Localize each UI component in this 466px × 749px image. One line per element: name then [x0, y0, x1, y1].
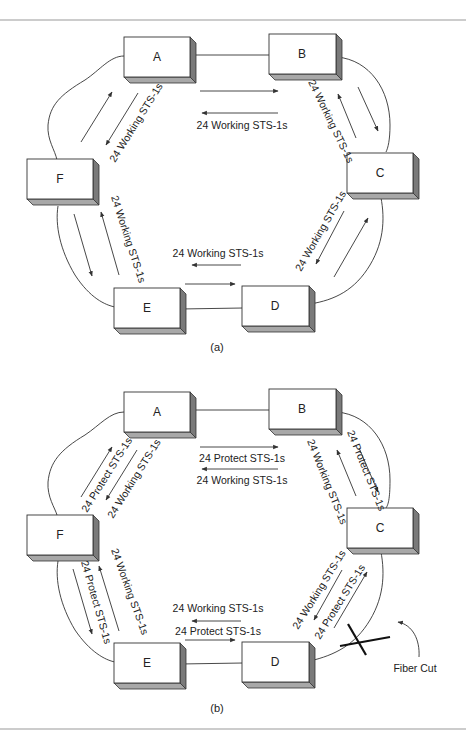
- sonet-ring-diagram: A B C D E F: [0, 0, 466, 749]
- label-ab: 24 Working STS-1s: [197, 119, 288, 131]
- node-a-label: A: [153, 50, 161, 64]
- label-de-protect: 24 Protect STS-1s: [175, 625, 261, 637]
- arrow-f-to-a: [81, 92, 112, 142]
- arrow-f-to-e: [74, 214, 92, 276]
- node-b: B: [269, 34, 342, 80]
- fiber-cut-marker: Fiber Cut: [340, 622, 437, 674]
- node-e-label: E: [143, 656, 151, 670]
- label-de-working: 24 Working STS-1s: [173, 602, 264, 614]
- caption-b: (b): [210, 702, 223, 714]
- node-f-label: F: [56, 172, 63, 186]
- node-c-label: C: [376, 166, 385, 180]
- node-a: A: [124, 37, 196, 83]
- label-cd-protect: 24 Protect STS-1s: [312, 562, 368, 641]
- node-f-label: F: [56, 528, 63, 542]
- panel-b: A B C D E F: [27, 389, 437, 714]
- arrow-c-to-b: [337, 450, 356, 496]
- node-c-label: C: [376, 521, 385, 535]
- node-a: A: [124, 392, 196, 438]
- node-d: D: [242, 642, 315, 688]
- node-c: C: [347, 508, 419, 554]
- arrow-e-to-f: [101, 212, 119, 275]
- node-f: F: [27, 515, 99, 561]
- node-d-label: D: [271, 655, 280, 669]
- arrow-b-to-c: [358, 87, 378, 131]
- node-c: C: [347, 153, 419, 199]
- label-bc-protect: 24 Protect STS-1s: [345, 428, 388, 512]
- node-e-label: E: [143, 301, 151, 315]
- arrow-d-to-c: [334, 218, 368, 277]
- node-d-label: D: [271, 299, 280, 313]
- label-fa: 24 Working STS-1s: [107, 81, 165, 164]
- node-a-label: A: [153, 405, 161, 419]
- node-f: F: [27, 159, 99, 205]
- panel-a: A B C D E F: [27, 34, 419, 353]
- node-e: E: [114, 288, 186, 334]
- label-ef-working: 24 Working STS-1s: [109, 547, 151, 636]
- fiber-cut-pointer-arrow: [398, 622, 419, 657]
- cut-x-line-1: [348, 624, 366, 655]
- caption-a: (a): [210, 341, 223, 353]
- node-b-label: B: [298, 47, 306, 61]
- label-ab-protect: 24 Protect STS-1s: [199, 452, 285, 464]
- fiber-e-d: [180, 308, 243, 309]
- fiber-a-f: [48, 56, 124, 160]
- label-bc-working: 24 Working STS-1s: [305, 437, 350, 526]
- label-cd: 24 Working STS-1s: [292, 188, 348, 273]
- node-b-label: B: [298, 402, 306, 416]
- fiber-c-d: [310, 193, 383, 304]
- node-d: D: [242, 286, 315, 332]
- label-ef-protect: 24 Protect STS-1s: [79, 559, 114, 645]
- label-de: 24 Working STS-1s: [173, 247, 264, 259]
- fiber-cut-label: Fiber Cut: [393, 662, 436, 674]
- node-b: B: [269, 389, 342, 435]
- node-e: E: [114, 643, 186, 689]
- fiber-e-d: [180, 663, 243, 664]
- label-fa-working: 24 Working STS-1s: [105, 437, 163, 520]
- label-ab-working: 24 Working STS-1s: [197, 474, 288, 486]
- label-ef: 24 Working STS-1s: [109, 194, 148, 284]
- cut-x-line-2: [340, 637, 390, 646]
